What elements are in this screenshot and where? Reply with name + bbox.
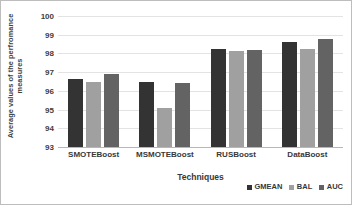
- x-axis-category-labels: SMOTEBoostMSMOTEBoostRUSBoostDataBoost: [58, 150, 343, 160]
- bar: [300, 49, 315, 147]
- y-axis-tick-label: 97: [30, 68, 54, 77]
- bar: [104, 74, 119, 147]
- bar-group: [201, 16, 272, 147]
- legend-label: BAL: [297, 183, 312, 191]
- bar: [318, 39, 333, 147]
- y-axis-title-line2: measures: [15, 14, 24, 139]
- bar-group: [272, 16, 343, 147]
- x-axis-category-label: DataBoost: [272, 150, 343, 160]
- x-axis-category-label: RUSBoost: [201, 150, 272, 160]
- bar-groups: [58, 16, 343, 147]
- y-axis-ticks: 10099989796959493: [28, 16, 54, 147]
- bar-chart: Average values of the perfromance measur…: [0, 0, 352, 205]
- legend-swatch-icon: [319, 185, 324, 190]
- bar: [157, 108, 172, 147]
- bar: [229, 51, 244, 147]
- legend-label: AUC: [327, 183, 343, 191]
- legend-item[interactable]: GMEAN: [247, 183, 282, 191]
- bar: [247, 50, 262, 147]
- bar: [282, 42, 297, 147]
- y-axis-title: Average values of the perfromance measur…: [0, 0, 30, 152]
- y-axis-tick-label: 95: [30, 105, 54, 114]
- x-axis-title: Techniques: [58, 172, 343, 182]
- chart-legend: GMEANBALAUC: [247, 183, 343, 191]
- y-axis-title-line1: Average values of the perfromance: [6, 14, 15, 139]
- bar: [175, 83, 190, 147]
- y-axis-tick-label: 99: [30, 30, 54, 39]
- y-axis-tick-label: 100: [30, 12, 54, 21]
- bar: [211, 49, 226, 147]
- legend-item[interactable]: AUC: [319, 183, 343, 191]
- bar: [68, 79, 83, 147]
- y-axis-tick-label: 94: [30, 124, 54, 133]
- x-axis-category-label: SMOTEBoost: [58, 150, 129, 160]
- y-axis-tick-label: 98: [30, 49, 54, 58]
- legend-swatch-icon: [247, 185, 252, 190]
- bar-group: [129, 16, 200, 147]
- bar: [86, 82, 101, 147]
- x-axis-line: [58, 147, 343, 148]
- bar: [139, 82, 154, 148]
- y-axis-tick-label: 93: [30, 143, 54, 152]
- x-axis-category-label: MSMOTEBoost: [129, 150, 200, 160]
- legend-item[interactable]: BAL: [289, 183, 312, 191]
- legend-label: GMEAN: [254, 183, 282, 191]
- bar-group: [58, 16, 129, 147]
- legend-swatch-icon: [289, 185, 294, 190]
- y-axis-tick-label: 96: [30, 86, 54, 95]
